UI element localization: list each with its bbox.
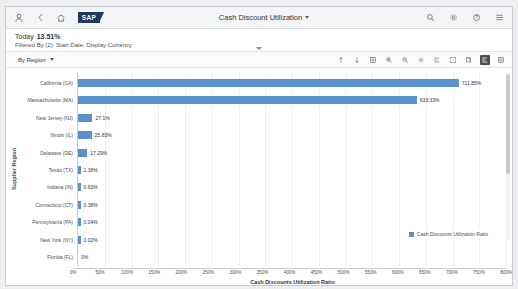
svg-text:?: ? — [475, 15, 478, 20]
sap-logo-text: SAP — [78, 12, 100, 23]
category-label: Connecticut (CT) — [19, 196, 77, 213]
x-axis-tick-label: 50% — [95, 270, 104, 275]
x-axis: 0%50%100%150%200%250%300%350%400%450%500… — [73, 268, 506, 280]
bar-row[interactable]: 0.38% — [78, 196, 506, 213]
category-labels-column: California (CA)Massachusetts (MA)New Jer… — [19, 72, 77, 266]
zoom-in-icon[interactable] — [384, 55, 394, 65]
bar-value-label: 25.83% — [95, 132, 112, 138]
x-axis-tick-label: 200% — [175, 270, 187, 275]
collapse-header-button[interactable] — [252, 45, 266, 52]
x-axis-tick-label: 600% — [392, 270, 404, 275]
bar-value-label: 633.33% — [420, 97, 440, 103]
category-label: Delaware (DE) — [19, 144, 77, 161]
bar[interactable] — [78, 96, 417, 104]
chevron-down-icon[interactable] — [305, 16, 309, 19]
dimension-selector[interactable]: By Region — [14, 56, 58, 64]
bar-value-label: 1.38% — [84, 167, 98, 173]
bar[interactable] — [78, 79, 459, 87]
hamburger-menu-icon[interactable] — [493, 12, 505, 24]
x-axis-tick-label: 700% — [446, 270, 458, 275]
copy-icon[interactable] — [464, 55, 474, 65]
kpi-header: Today13.51% Filtered By (2): Start Date,… — [6, 29, 512, 52]
bar-value-label: 0.04% — [84, 219, 98, 225]
sort-ascending-icon[interactable] — [336, 55, 346, 65]
shell-bar-title-group[interactable]: Cash Discount Utilization — [104, 13, 424, 22]
bar-row[interactable]: 25.83% — [78, 126, 506, 143]
chart-toolbar-icons — [336, 55, 506, 65]
bar-row[interactable]: 0.63% — [78, 179, 506, 196]
grid-icon[interactable] — [496, 55, 506, 65]
dimension-label: By Region — [18, 57, 46, 63]
bar[interactable] — [78, 114, 92, 122]
bar-value-label: 0.02% — [84, 237, 98, 243]
bar[interactable] — [78, 218, 81, 226]
y-axis-title-text: Supplier Region — [12, 148, 18, 190]
home-icon[interactable] — [55, 12, 67, 24]
sap-logo[interactable]: SAP — [78, 12, 104, 23]
y-axis-title: Supplier Region — [10, 72, 19, 266]
bar-value-label: 27.1% — [95, 115, 109, 121]
bar-row[interactable]: 711.85% — [78, 74, 506, 91]
kpi-label: Today — [15, 33, 34, 40]
category-label: Pennsylvania (PA) — [19, 214, 77, 231]
x-axis-tick-label: 250% — [202, 270, 214, 275]
bar-value-label: 0.63% — [84, 184, 98, 190]
x-axis-tick-label: 100% — [121, 270, 133, 275]
bar-row[interactable]: 17.29% — [78, 144, 506, 161]
shell-bar: SAP Cash Discount Utilization ? — [6, 7, 512, 29]
category-label: California (CA) — [19, 74, 77, 91]
gear-icon[interactable] — [447, 12, 459, 24]
chart-vertical-scrollbar[interactable] — [506, 74, 510, 240]
x-axis-tick-label: 150% — [148, 270, 160, 275]
category-label: Massachusetts (MA) — [19, 91, 77, 108]
shell-bar-right-group: ? — [424, 12, 505, 24]
back-icon[interactable] — [34, 12, 46, 24]
bar-row[interactable]: 27.1% — [78, 109, 506, 126]
app-root: SAP Cash Discount Utilization ? — [0, 0, 518, 289]
bar[interactable] — [78, 236, 81, 244]
bar-row[interactable]: 633.33% — [78, 91, 506, 108]
bar-value-label: 0% — [81, 254, 88, 260]
bar[interactable] — [78, 183, 81, 191]
user-icon[interactable] — [13, 12, 25, 24]
chart-legend[interactable]: Cash Discounts Utilization Ratio — [407, 230, 490, 238]
x-axis-tick-label: 650% — [419, 270, 431, 275]
category-label: Illinois (IL) — [19, 126, 77, 143]
page-title: Cash Discount Utilization — [219, 13, 302, 22]
x-axis-tick-label: 800% — [500, 270, 512, 275]
bar[interactable] — [78, 201, 81, 209]
category-label: New York (NY) — [19, 231, 77, 248]
x-axis-tick-label: 400% — [284, 270, 296, 275]
bar-row[interactable]: 0% — [78, 249, 506, 266]
bar-row[interactable]: 1.38% — [78, 161, 506, 178]
category-label: Texas (TX) — [19, 161, 77, 178]
chart-toolbar: By Region — [6, 52, 512, 68]
sort-descending-icon[interactable] — [352, 55, 362, 65]
table-view-icon[interactable] — [368, 55, 378, 65]
bar-row[interactable]: 0.04% — [78, 214, 506, 231]
bar[interactable] — [78, 131, 92, 139]
settings-icon[interactable] — [416, 55, 426, 65]
kpi-today-row: Today13.51% — [15, 33, 503, 40]
zoom-out-icon[interactable] — [400, 55, 410, 65]
bar-value-label: 17.29% — [90, 150, 107, 156]
scrollbar-thumb[interactable] — [506, 74, 510, 174]
help-icon[interactable]: ? — [470, 12, 482, 24]
chevron-down-icon — [50, 58, 54, 61]
chart-legend-icon[interactable] — [432, 55, 442, 65]
x-axis-tick-label: 350% — [257, 270, 269, 275]
bar-chart-icon[interactable] — [480, 55, 490, 65]
legend-swatch — [409, 232, 414, 237]
search-icon[interactable] — [424, 12, 436, 24]
x-axis-tick-label: 500% — [338, 270, 350, 275]
category-label: Florida (FL) — [19, 249, 77, 266]
fullscreen-icon[interactable] — [448, 55, 458, 65]
chevron-down-icon — [256, 47, 262, 50]
x-axis-tick-label: 0% — [70, 270, 77, 275]
kpi-value: 13.51% — [37, 33, 61, 40]
x-axis-tick-label: 550% — [365, 270, 377, 275]
bar[interactable] — [78, 149, 87, 157]
bar[interactable] — [78, 166, 81, 174]
application-window: SAP Cash Discount Utilization ? — [5, 6, 513, 286]
legend-label: Cash Discounts Utilization Ratio — [417, 231, 488, 237]
